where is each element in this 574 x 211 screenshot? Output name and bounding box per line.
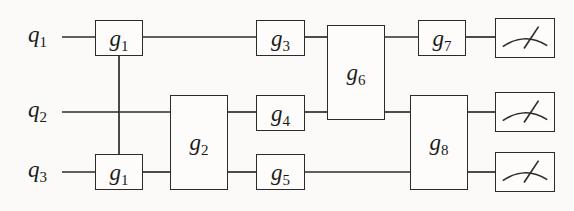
gate-label-base: g <box>430 130 442 155</box>
qubit-label-base: q <box>28 157 40 182</box>
gate-box-g5: g5 <box>256 154 305 190</box>
gate-label-base: g <box>433 26 445 51</box>
qubit-label-q1: q1 <box>28 22 47 48</box>
gate-box-g8: g8 <box>410 95 468 190</box>
gate-label-base: g <box>190 130 202 155</box>
gate-label-base: g <box>347 60 359 85</box>
gate-label-base: g <box>271 101 283 126</box>
gate-label-g5: g5 <box>271 161 290 184</box>
gate-box-g4: g4 <box>256 95 305 131</box>
qubit-label-index: 2 <box>40 109 48 125</box>
qubit-label-q3: q3 <box>28 157 47 183</box>
meter-dial-arc <box>503 39 547 47</box>
quantum-circuit-diagram: q1q2q3 g1g1g2g3g4g5g6g7g8 <box>0 0 574 211</box>
gate-label-index: 1 <box>121 172 129 188</box>
gate-label-index: 3 <box>283 38 291 54</box>
qubit-label-base: q <box>28 22 40 47</box>
qubit-label-index: 1 <box>40 34 48 50</box>
gate-label-g3: g3 <box>271 27 290 50</box>
qubit-label-base: q <box>28 97 40 122</box>
gate-label-index: 7 <box>444 38 452 54</box>
gate-label-index: 2 <box>201 142 209 158</box>
gate-label-base: g <box>110 160 122 185</box>
gate-label-base: g <box>271 26 283 51</box>
measurement-meter-q2 <box>495 92 555 132</box>
gate-box-g1b: g1 <box>95 154 143 190</box>
gate-label-g6: g6 <box>347 61 366 84</box>
meter-needle <box>524 27 539 49</box>
gate-label-index: 1 <box>121 38 129 54</box>
gate-label-base: g <box>110 26 122 51</box>
gate-box-g1a: g1 <box>95 20 143 56</box>
gate-label-g4: g4 <box>271 102 290 125</box>
meter-dial-arc <box>503 113 547 121</box>
gate-label-index: 5 <box>283 172 291 188</box>
meter-needle <box>524 161 539 183</box>
meter-dial-arc <box>503 173 547 181</box>
gate-label-g1b: g1 <box>110 161 129 184</box>
meter-needle <box>524 101 539 123</box>
gate-label-g8: g8 <box>430 131 449 154</box>
gate-box-g3: g3 <box>256 20 305 56</box>
meter-icon <box>496 19 554 57</box>
qubit-label-q2: q2 <box>28 97 47 123</box>
gate-label-g1a: g1 <box>110 27 129 50</box>
measurement-meter-q3 <box>495 152 555 192</box>
gate-label-index: 4 <box>283 113 291 129</box>
gate-label-g7: g7 <box>433 27 452 50</box>
measurement-meter-q1 <box>495 18 555 58</box>
gate-box-g6: g6 <box>327 25 385 120</box>
qubit-label-index: 3 <box>40 169 48 185</box>
meter-icon <box>496 93 554 131</box>
gate-label-index: 8 <box>441 142 449 158</box>
meter-icon <box>496 153 554 191</box>
gate-box-g7: g7 <box>418 20 466 56</box>
gate-label-base: g <box>271 160 283 185</box>
gate-label-g2: g2 <box>190 131 209 154</box>
gate-box-g2: g2 <box>170 95 228 190</box>
gate-label-index: 6 <box>358 72 366 88</box>
